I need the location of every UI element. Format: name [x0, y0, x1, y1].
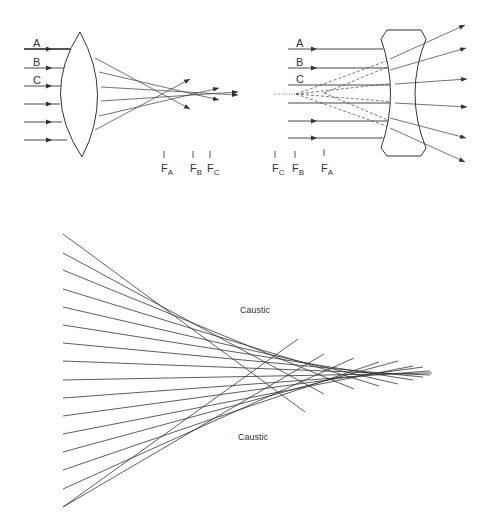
ray-label-c: C	[33, 74, 41, 86]
focal-label-fc: FC	[207, 162, 220, 177]
incident-rays	[288, 47, 395, 141]
caustic-rays	[63, 234, 432, 507]
convex-lens	[60, 32, 97, 157]
focal-label-fa: FA	[161, 162, 174, 177]
caustic-label-lower: Caustic	[238, 432, 269, 442]
diverging-lens-diagram: A B C FC FB FA	[272, 25, 467, 177]
concave-lens	[381, 30, 426, 156]
spherical-aberration-figure: A B C FA FB FC	[0, 0, 486, 526]
ray-label-a: A	[33, 37, 41, 49]
ray-label-b: B	[33, 56, 40, 68]
focal-label-fa: FA	[321, 162, 334, 177]
focal-label-fc: FC	[272, 162, 285, 177]
virtual-ray-extensions	[274, 59, 395, 128]
focal-label-fb: FB	[292, 162, 304, 177]
ray-label-a: A	[296, 37, 304, 49]
focal-label-fb: FB	[190, 162, 202, 177]
ray-label-b: B	[296, 56, 303, 68]
caustic-label-upper: Caustic	[240, 305, 271, 315]
refracted-rays	[95, 58, 238, 130]
converging-lens-diagram: A B C FA FB FC	[24, 32, 238, 177]
caustic-diagram: Caustic Caustic	[63, 234, 432, 507]
ray-label-c: C	[296, 73, 304, 85]
